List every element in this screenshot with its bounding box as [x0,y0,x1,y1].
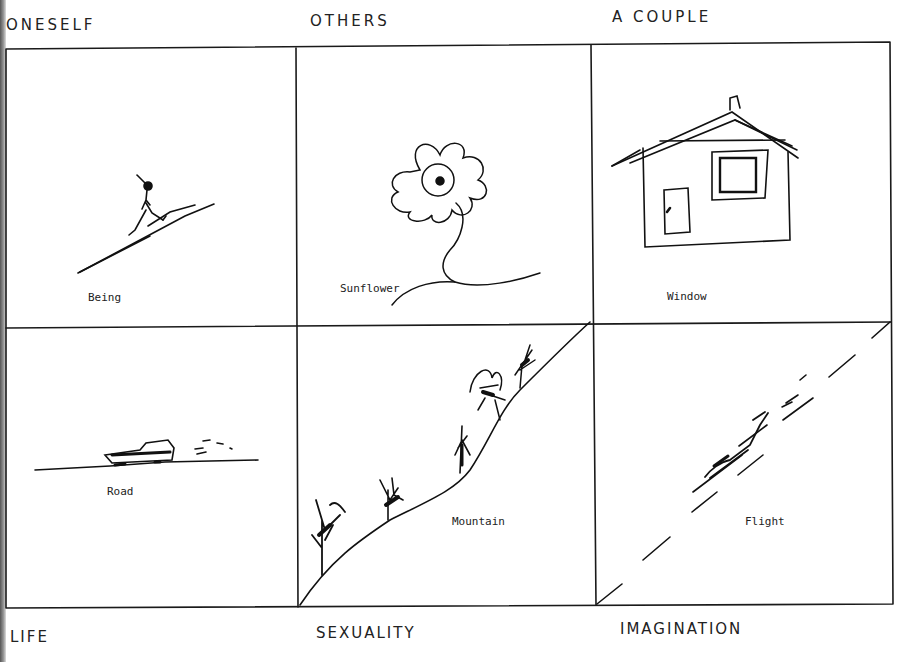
caption-mountain: Mountain [452,515,505,528]
mountain-drawing-icon [300,322,590,605]
caption-sunflower: Sunflower [340,282,400,295]
caption-flight: Flight [745,515,785,528]
label-life: LIFE [10,628,49,646]
caption-window: Window [667,290,707,303]
label-sexuality: SEXUALITY [316,624,416,642]
being-drawing-icon [78,175,214,273]
caption-being: Being [88,291,121,304]
drawing-grid [0,0,917,662]
car-on-road-drawing-icon [35,440,258,470]
divider-col-1 [296,48,298,607]
caption-road: Road [107,485,134,498]
divider-row [6,322,891,328]
divider-col-2 [591,45,596,605]
sunflower-drawing-icon [392,143,540,305]
airplane-drawing-icon [597,322,890,604]
label-imagination: IMAGINATION [620,620,742,638]
house-drawing-icon [612,96,798,247]
